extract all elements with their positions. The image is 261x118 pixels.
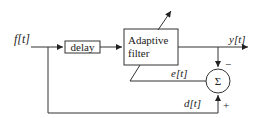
error-line xyxy=(130,65,206,81)
input-signal-label: f[t] xyxy=(14,32,30,46)
summer-plus-label: + xyxy=(223,99,229,111)
filter-label-line1: Adaptive xyxy=(128,34,168,46)
filter-label-line2: filter xyxy=(128,47,150,59)
delay-label: delay xyxy=(71,41,95,53)
output-signal-label: y[t] xyxy=(228,33,246,45)
summer-minus-label: − xyxy=(225,58,231,70)
error-signal-label: e[t] xyxy=(171,67,188,79)
desired-signal-label: d[t] xyxy=(184,97,201,109)
adaptive-filter-diagram: f[t] delay Adaptive filter y[t] − Σ e[t]… xyxy=(0,0,261,118)
adaptation-arrow xyxy=(158,11,171,30)
summer-symbol: Σ xyxy=(215,75,221,87)
